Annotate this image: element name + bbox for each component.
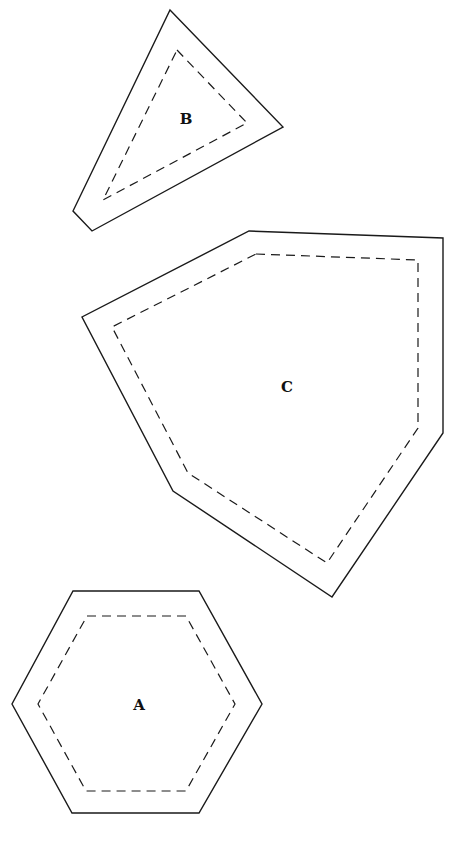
shape-c: C (82, 231, 443, 597)
shape-a: A (12, 591, 262, 813)
shape-b-seam-line (103, 50, 247, 200)
shape-c-outline (82, 231, 443, 597)
shape-a-label: A (132, 696, 145, 714)
shape-b-label: B (180, 110, 193, 128)
shape-b: B (73, 10, 283, 231)
shape-c-seam-line (112, 254, 418, 563)
shape-b-outline (73, 10, 283, 231)
pattern-diagram: B C A (0, 0, 462, 843)
shape-c-label: C (281, 378, 293, 396)
